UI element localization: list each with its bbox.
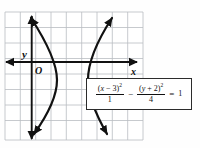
right-fraction: (y + 2)2 4 (137, 85, 165, 104)
equals-sign: = (168, 90, 175, 99)
coordinate-plane-svg: y x O (0, 0, 200, 148)
left-fraction: (x − 3)2 1 (96, 85, 124, 104)
origin-label: O (35, 65, 42, 76)
minus-operator: − (127, 90, 134, 99)
hyperbola-equation: (x − 3)2 1 − (y + 2)2 4 = 1 (96, 85, 183, 104)
left-term: − 3 (104, 84, 117, 93)
y-axis-label: y (20, 48, 27, 60)
right-exponent: 2 (160, 82, 163, 88)
left-denominator: 1 (106, 95, 114, 104)
graph-figure: y x O (x − 3)2 1 − (y + 2)2 4 = 1 (0, 0, 200, 148)
x-axis-label: x (130, 66, 136, 77)
left-exponent: 2 (119, 82, 122, 88)
right-numerator: (y + 2)2 (137, 85, 165, 94)
right-denominator: 4 (147, 95, 155, 104)
equation-result: 1 (178, 90, 182, 98)
left-numerator: (x − 3)2 (96, 85, 124, 94)
grid-lines (5, 12, 143, 140)
right-term: + 2 (145, 84, 158, 93)
equation-callout-box: (x − 3)2 1 − (y + 2)2 4 = 1 (86, 78, 192, 110)
